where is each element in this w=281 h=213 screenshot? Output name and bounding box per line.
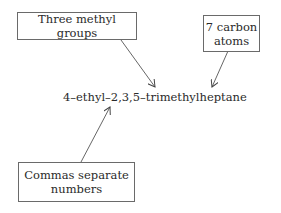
label-text: 7 carbon atoms [204, 20, 259, 48]
arrow-methyl [121, 40, 155, 87]
label-7-carbon-atoms: 7 carbon atoms [203, 15, 260, 52]
label-text: Three methyl groups [18, 12, 136, 40]
label-commas-separate-numbers: Commas separate numbers [18, 162, 135, 202]
arrow-commas [81, 107, 110, 162]
compound-name: 4–ethyl–2,3,5–trimethylheptane [63, 90, 247, 104]
arrow-carbon [212, 51, 228, 87]
label-text: Commas separate numbers [19, 168, 134, 196]
label-three-methyl-groups: Three methyl groups [17, 12, 137, 40]
